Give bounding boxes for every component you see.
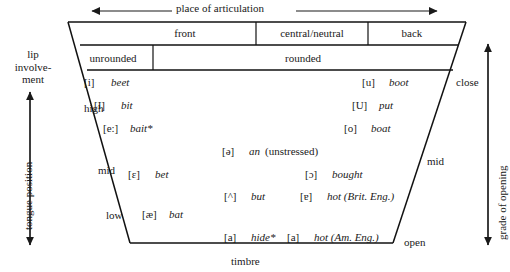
vowel-symbol: [ɛ]: [128, 168, 148, 180]
vowel-entry-small-cap-u: [U]put: [352, 99, 393, 111]
vowel-entry-small-cap-i: [I]bit: [94, 99, 133, 111]
vowel-symbol: [u]: [362, 76, 382, 88]
grade-of-opening-label: grade of opening: [496, 165, 508, 240]
vowel-symbol: [i]: [84, 76, 104, 88]
vowel-word: bat: [169, 208, 183, 220]
vowel-word: beet: [111, 76, 129, 88]
vowel-entry-turned-a: [ɐ]hot (Brit. Eng.): [300, 190, 394, 202]
vowel-symbol: [I]: [94, 99, 114, 111]
vowel-word: put: [379, 99, 393, 111]
vowel-symbol: [a]: [224, 231, 244, 243]
zone-label-low: low: [106, 209, 123, 221]
vowel-symbol: [a]: [287, 231, 307, 243]
vowel-word: an: [249, 145, 260, 157]
vowel-symbol: [ɐ]: [300, 190, 320, 202]
header-cell-central-neutral: central/neutral: [258, 27, 366, 39]
vowel-entry-o: [o]boat: [344, 122, 391, 134]
vowel-symbol: [o]: [344, 122, 364, 134]
lip-involvement-line-1: lip: [2, 48, 64, 61]
vowel-symbol: [ə]: [222, 145, 242, 157]
lip-involvement-label: lip involve- ment: [2, 48, 64, 86]
lip-involvement-line-3: ment: [2, 73, 64, 86]
vowel-word: but: [251, 190, 265, 202]
vowel-symbol: [U]: [352, 99, 372, 111]
vowel-word: bought: [332, 168, 363, 180]
vowel-note: (unstressed): [265, 145, 318, 157]
vowel-entry-open-o: [ɔ]bought: [305, 168, 363, 180]
timbre-label: timbre: [231, 255, 260, 267]
tongue-position-label: tongue position: [22, 162, 34, 230]
header-cell-back: back: [370, 27, 454, 39]
vowel-entry-e-long: [e:]bait*: [103, 122, 153, 134]
vowel-word: bet: [155, 168, 168, 180]
vowel-chart-figure: place of articulation timbre tongue posi…: [0, 0, 510, 272]
opening-label-close: close: [456, 76, 479, 88]
vowel-symbol: [ɔ]: [305, 168, 325, 180]
vowel-entry-ae: [æ]bat: [142, 208, 183, 220]
vowel-entry-epsilon: [ɛ]bet: [128, 168, 168, 180]
vowel-symbol: [e:]: [103, 122, 123, 134]
vowel-entry-a-hide: [a]hide*: [224, 231, 275, 243]
vowel-word: hide*: [251, 231, 275, 243]
vowel-word: hot (Am. Eng.): [314, 231, 379, 243]
zone-label-mid: mid: [98, 164, 115, 176]
vowel-entry-caret: [^]but: [224, 190, 265, 202]
header-cell-unrounded: unrounded: [75, 52, 151, 64]
lip-involvement-line-2: involve-: [2, 61, 64, 74]
place-of-articulation-label: place of articulation: [176, 2, 264, 14]
vowel-word: boat: [371, 122, 391, 134]
opening-label-mid: mid: [427, 155, 444, 167]
vowel-entry-u: [u]boot: [362, 76, 409, 88]
vowel-word: boot: [389, 76, 409, 88]
vowel-word: bit: [121, 99, 133, 111]
vowel-word: hot (Brit. Eng.): [327, 190, 394, 202]
opening-label-open: open: [404, 236, 425, 248]
vowel-symbol: [æ]: [142, 208, 162, 220]
vowel-entry-i: [i]beet: [84, 76, 129, 88]
header-cell-front: front: [120, 27, 250, 39]
vowel-entry-schwa: [ə]an(unstressed): [222, 145, 318, 157]
vowel-symbol: [^]: [224, 190, 244, 202]
vowel-entry-a-hot: [a]hot (Am. Eng.): [287, 231, 379, 243]
header-cell-rounded: rounded: [156, 52, 450, 64]
vowel-word: bait*: [130, 122, 153, 134]
